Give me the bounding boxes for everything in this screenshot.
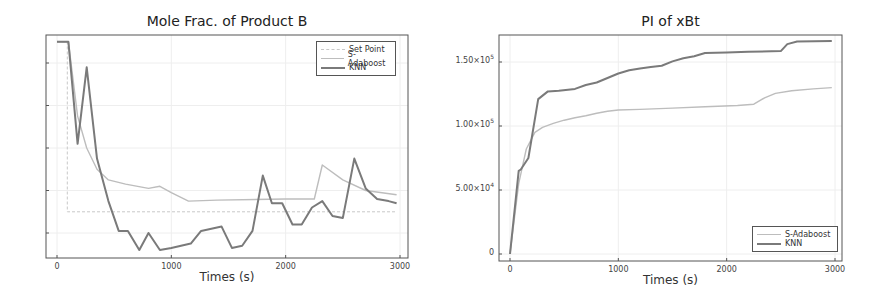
legend-swatch [321,58,344,59]
y-tick-label: 5.00×104 [455,184,494,193]
x-tick-label: 2000 [716,265,736,274]
legend-swatch [321,67,345,69]
chart-mole-frac: Mole Frac. of Product B 01000200030000.0… [0,0,440,304]
x-axis-label: Times (s) [46,270,408,284]
x-tick-label: 3000 [825,265,845,274]
series-line-knn [510,41,832,254]
x-tick-label: 1000 [608,265,628,274]
legend-item-knn: KNN [757,239,833,248]
y-tick-label: 1.50×105 [455,56,494,65]
legend: Set Point S-Adaboost KNN [316,41,396,76]
chart-title: PI of xBt [499,13,842,29]
plot-frame [499,35,842,261]
legend-item-s-adaboost: S-Adaboost [321,54,391,63]
legend-item-s-adaboost: S-Adaboost [757,230,833,239]
legend-swatch [757,234,781,235]
y-tick-label: 1.00×105 [455,120,494,129]
x-axis-label: Times (s) [499,273,842,287]
legend-swatch [321,49,345,50]
x-tick-label: 0 [507,265,512,274]
series-line-s-adaboost [510,88,832,254]
y-tick-label: 0 [489,248,494,257]
legend-swatch [757,243,781,245]
legend: S-Adaboost KNN [752,226,838,252]
